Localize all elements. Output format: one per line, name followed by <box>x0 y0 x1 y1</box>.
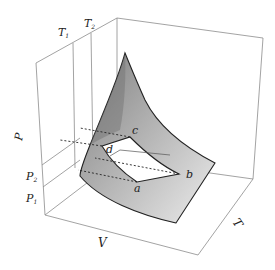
back-wall-top-edge <box>117 18 263 38</box>
left-wall-top-edge <box>36 18 117 63</box>
p-axis-label: P <box>12 131 26 142</box>
pvt-diagram: T1 T2 P P2 P1 V T a b c d <box>0 0 275 270</box>
p1-line <box>43 160 80 187</box>
p2-line <box>42 138 80 165</box>
t1-label: T1 <box>58 26 69 39</box>
left-wall-outer-edge <box>36 63 45 215</box>
point-b-label: b <box>186 168 193 181</box>
pvt-surface <box>80 53 215 223</box>
point-a-label: a <box>134 182 141 195</box>
t2-label: T2 <box>84 17 95 30</box>
p1-label: P1 <box>25 192 37 205</box>
p2-label: P2 <box>25 170 37 183</box>
t1-vertical-line <box>73 43 75 168</box>
right-vertical-edge <box>253 38 263 179</box>
v-axis-label: V <box>98 236 108 250</box>
point-d-label: d <box>106 143 113 156</box>
t-axis-label: T <box>230 216 247 231</box>
point-c-label: c <box>132 124 138 137</box>
floor-t-edge <box>198 179 253 255</box>
